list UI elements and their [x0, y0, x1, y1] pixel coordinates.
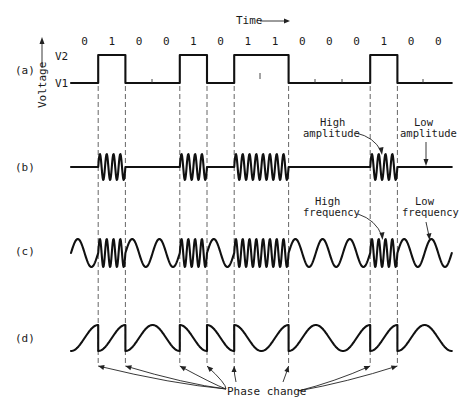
svg-text:frequency: frequency [303, 206, 360, 218]
bit-label: 0 [217, 35, 224, 48]
v1-label: V1 [55, 77, 68, 90]
phase-modulated-waveform [71, 325, 452, 351]
baseline-ticks [152, 73, 423, 83]
svg-text:amplitude: amplitude [303, 127, 360, 139]
svg-text:amplitude: amplitude [400, 127, 457, 139]
frequency-modulated-waveform [71, 239, 452, 267]
bit-label: 0 [408, 35, 415, 48]
voltage-label: Voltage [36, 62, 49, 108]
bit-label: 1 [272, 35, 279, 48]
high-frequency-annotation: High frequency [303, 195, 385, 240]
bit-label: 0 [81, 35, 88, 48]
modulation-diagram: Time 01001011000100 Voltage V2 V1 (a) (b… [0, 0, 467, 411]
amplitude-modulated-waveform [71, 154, 452, 180]
bit-label: 0 [435, 35, 442, 48]
bit-label: 1 [109, 35, 116, 48]
low-amplitude-annotation: Low amplitude [400, 116, 457, 166]
bit-label: 0 [299, 35, 306, 48]
time-arrow-icon [260, 19, 290, 24]
bit-label: 1 [381, 35, 388, 48]
high-amplitude-annotation: High amplitude [303, 116, 384, 155]
row-label-d: (d) [15, 332, 35, 345]
v2-label: V2 [55, 50, 68, 63]
bit-label: 0 [136, 35, 143, 48]
bit-label: 0 [163, 35, 170, 48]
bit-label: 0 [353, 35, 360, 48]
phase-change-label: Phase change [227, 385, 306, 398]
digital-signal-waveform [71, 55, 452, 83]
bit-label: 1 [245, 35, 252, 48]
row-label-a: (a) [15, 64, 35, 77]
row-label-c: (c) [15, 245, 35, 258]
svg-text:frequency: frequency [402, 206, 459, 218]
bit-label: 0 [326, 35, 333, 48]
low-frequency-annotation: Low frequency [402, 195, 459, 240]
row-label-b: (b) [15, 161, 35, 174]
bit-label: 1 [190, 35, 197, 48]
time-label: Time [236, 14, 263, 27]
bit-labels: 01001011000100 [81, 35, 441, 48]
